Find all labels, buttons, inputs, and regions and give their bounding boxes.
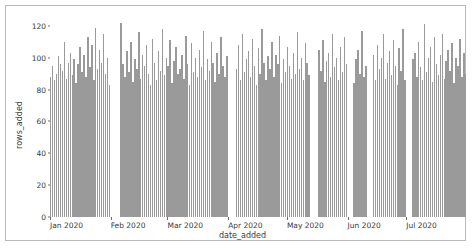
y-axis-tick-label: 80 xyxy=(36,85,46,94)
bar xyxy=(226,56,227,217)
plot-area: 020406080100120Jan 2020Feb 2020Mar 2020A… xyxy=(50,18,467,217)
x-axis-tick-mark xyxy=(406,217,407,220)
bar xyxy=(109,85,110,217)
y-axis-tick-label: 20 xyxy=(36,181,46,190)
y-axis-tick-mark xyxy=(48,25,51,26)
x-axis-tick-mark xyxy=(228,217,229,220)
y-axis-title: rows_added xyxy=(12,82,26,168)
x-axis-tick-label: Jun 2020 xyxy=(348,221,381,230)
y-axis-tick-label: 120 xyxy=(32,21,46,30)
bar xyxy=(465,74,466,217)
y-axis-tick-label: 0 xyxy=(41,213,46,222)
bar xyxy=(365,66,366,217)
y-axis-tick-label: 60 xyxy=(36,117,46,126)
chart-frame: rows_added date_added 020406080100120Jan… xyxy=(5,5,466,241)
x-axis-tick-mark xyxy=(287,217,288,220)
y-axis-title-text: rows_added xyxy=(15,101,24,149)
y-axis-tick-label: 40 xyxy=(36,149,46,158)
x-axis-tick-mark xyxy=(167,217,168,220)
x-axis-tick-label: May 2020 xyxy=(287,221,324,230)
x-axis-tick-mark xyxy=(50,217,51,220)
bar xyxy=(404,80,405,217)
bar xyxy=(308,75,309,217)
bar xyxy=(346,64,347,217)
x-axis-tick-label: Apr 2020 xyxy=(228,221,262,230)
y-axis-tick-label: 100 xyxy=(32,53,46,62)
y-axis-tick-mark xyxy=(48,57,51,58)
x-axis-tick-label: Mar 2020 xyxy=(167,221,203,230)
x-axis-tick-mark xyxy=(111,217,112,220)
x-axis-tick-label: Feb 2020 xyxy=(111,221,146,230)
x-axis-tick-label: Jul 2020 xyxy=(406,221,437,230)
x-axis-tick-mark xyxy=(348,217,349,220)
x-axis-title: date_added xyxy=(6,231,473,240)
x-axis-tick-label: Jan 2020 xyxy=(50,221,83,230)
